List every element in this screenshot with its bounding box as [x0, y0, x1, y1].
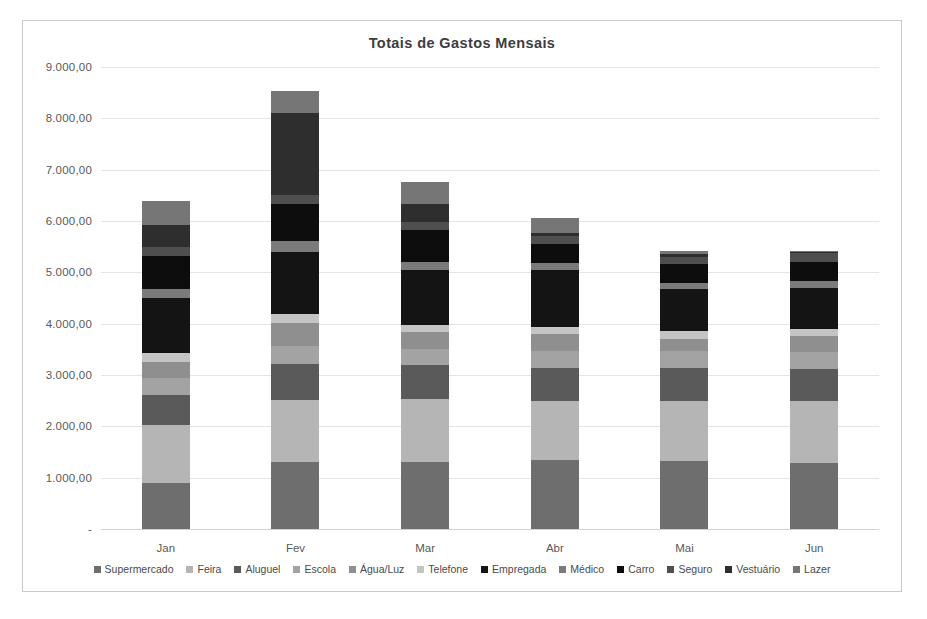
- legend-item[interactable]: Carro: [617, 563, 654, 575]
- legend-item[interactable]: Supermercado: [94, 563, 174, 575]
- bar-segment[interactable]: [401, 204, 449, 222]
- bar-segment[interactable]: [142, 289, 190, 298]
- legend-item[interactable]: Escola: [293, 563, 336, 575]
- bar-segment[interactable]: [531, 460, 579, 529]
- bar-segment[interactable]: [790, 329, 838, 336]
- stacked-bar[interactable]: [531, 218, 579, 529]
- bar-segment[interactable]: [401, 332, 449, 348]
- bar-segment[interactable]: [660, 461, 708, 529]
- x-axis-tick-label: Jun: [805, 542, 824, 554]
- bar-segment[interactable]: [271, 241, 319, 252]
- legend-label: Lazer: [804, 563, 830, 575]
- legend-label: Vestuário: [736, 563, 780, 575]
- bar-segment[interactable]: [271, 113, 319, 195]
- bar-segment[interactable]: [790, 352, 838, 368]
- bar-segment[interactable]: [271, 195, 319, 203]
- bar-segment[interactable]: [401, 325, 449, 333]
- bar-segment[interactable]: [531, 263, 579, 270]
- bar-segment[interactable]: [271, 204, 319, 241]
- bar-segment[interactable]: [401, 182, 449, 204]
- y-axis-tick-label: 7.000,00: [46, 164, 92, 176]
- bar-segment[interactable]: [531, 236, 579, 244]
- bar-segment[interactable]: [142, 395, 190, 426]
- bar-segment[interactable]: [531, 334, 579, 351]
- bar-segment[interactable]: [660, 401, 708, 461]
- legend-item[interactable]: Aluguel: [234, 563, 280, 575]
- bar-group[interactable]: Jun: [749, 67, 879, 529]
- stacked-bar[interactable]: [401, 182, 449, 529]
- bar-segment[interactable]: [142, 362, 190, 378]
- stacked-bar[interactable]: [790, 251, 838, 529]
- bar-group[interactable]: Fev: [231, 67, 361, 529]
- plot-area: 9.000,008.000,007.000,006.000,005.000,00…: [101, 67, 879, 529]
- legend-item[interactable]: Vestuário: [725, 563, 780, 575]
- bar-segment[interactable]: [271, 323, 319, 346]
- bar-segment[interactable]: [142, 483, 190, 529]
- bar-segment[interactable]: [531, 270, 579, 327]
- legend-item[interactable]: Feira: [186, 563, 221, 575]
- bar-segment[interactable]: [531, 401, 579, 461]
- bar-segment[interactable]: [401, 222, 449, 230]
- bar-segment[interactable]: [531, 244, 579, 263]
- bar-segment[interactable]: [531, 368, 579, 401]
- y-axis-tick-label: 3.000,00: [46, 369, 92, 381]
- bar-segment[interactable]: [790, 463, 838, 529]
- bar-segment[interactable]: [401, 349, 449, 365]
- legend-item[interactable]: Médico: [559, 563, 604, 575]
- bar-segment[interactable]: [401, 399, 449, 462]
- bar-segment[interactable]: [531, 327, 579, 334]
- legend-label: Supermercado: [105, 563, 174, 575]
- bar-segment[interactable]: [790, 262, 838, 281]
- legend-item[interactable]: Empregada: [481, 563, 546, 575]
- legend-item[interactable]: Água/Luz: [349, 563, 404, 575]
- bar-segment[interactable]: [660, 331, 708, 339]
- bar-segment[interactable]: [660, 257, 708, 265]
- bar-segment[interactable]: [271, 252, 319, 314]
- bar-segment[interactable]: [142, 378, 190, 395]
- bar-segment[interactable]: [401, 270, 449, 325]
- bar-segment[interactable]: [401, 365, 449, 399]
- bar-segment[interactable]: [142, 247, 190, 256]
- stacked-bar[interactable]: [660, 251, 708, 529]
- bar-segment[interactable]: [142, 353, 190, 361]
- bar-group[interactable]: Mai: [620, 67, 750, 529]
- bar-segment[interactable]: [790, 336, 838, 352]
- bar-segment[interactable]: [790, 253, 838, 261]
- stacked-bar[interactable]: [142, 201, 190, 529]
- bar-segment[interactable]: [660, 368, 708, 401]
- bar-segment[interactable]: [142, 201, 190, 225]
- bar-segment[interactable]: [142, 298, 190, 354]
- bar-segment[interactable]: [271, 314, 319, 323]
- legend-label: Seguro: [678, 563, 712, 575]
- legend-item[interactable]: Seguro: [667, 563, 712, 575]
- bar-segment[interactable]: [401, 262, 449, 270]
- bar-segment[interactable]: [142, 225, 190, 248]
- bar-segment[interactable]: [660, 351, 708, 367]
- bar-segment[interactable]: [142, 256, 190, 289]
- bar-group[interactable]: Mar: [360, 67, 490, 529]
- bar-segment[interactable]: [271, 364, 319, 400]
- bar-segment[interactable]: [660, 264, 708, 282]
- bar-segment[interactable]: [271, 346, 319, 363]
- bar-segment[interactable]: [142, 425, 190, 482]
- bar-segment[interactable]: [790, 281, 838, 289]
- stacked-bar[interactable]: [271, 91, 319, 529]
- bar-segment[interactable]: [271, 462, 319, 529]
- bar-segment[interactable]: [660, 289, 708, 331]
- bar-segment[interactable]: [271, 400, 319, 463]
- bar-group[interactable]: Jan: [101, 67, 231, 529]
- bar-segment[interactable]: [790, 288, 838, 329]
- legend-item[interactable]: Lazer: [793, 563, 830, 575]
- bar-segment[interactable]: [660, 283, 708, 290]
- bar-group[interactable]: Abr: [490, 67, 620, 529]
- bar-segment[interactable]: [401, 230, 449, 262]
- y-axis-tick-label: 6.000,00: [46, 215, 92, 227]
- bar-segment[interactable]: [271, 91, 319, 113]
- bar-segment[interactable]: [790, 401, 838, 463]
- bar-segment[interactable]: [790, 369, 838, 401]
- legend-item[interactable]: Telefone: [417, 563, 468, 575]
- bar-segment[interactable]: [531, 351, 579, 368]
- bar-segment[interactable]: [531, 218, 579, 233]
- bar-segment[interactable]: [401, 462, 449, 529]
- bar-segment[interactable]: [660, 339, 708, 351]
